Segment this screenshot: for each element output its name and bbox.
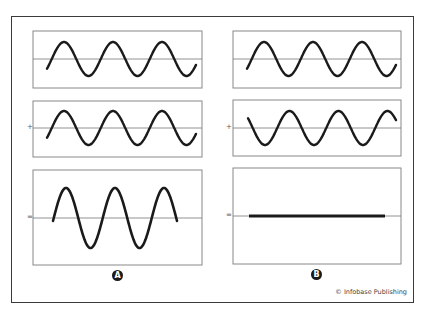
plus-operator-a: + xyxy=(27,124,33,131)
credit-text: © Infobase Publishing xyxy=(335,288,407,296)
column-a xyxy=(33,31,202,265)
equals-operator-a: = xyxy=(27,214,33,221)
label-b: B xyxy=(311,269,322,280)
equals-operator-b: = xyxy=(226,212,232,219)
column-b xyxy=(233,31,401,264)
panel-a1 xyxy=(33,31,202,88)
label-a: A xyxy=(112,270,123,281)
panel-a2 xyxy=(33,101,202,157)
plus-operator-b: + xyxy=(226,124,232,131)
interference-diagram xyxy=(0,0,426,314)
